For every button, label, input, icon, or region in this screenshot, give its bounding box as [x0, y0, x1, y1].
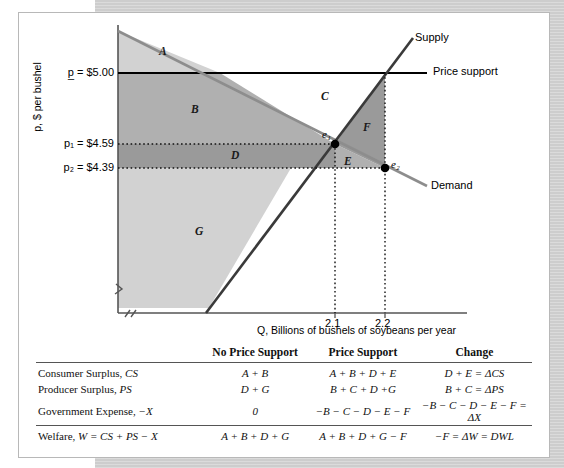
region-E-label: E [344, 155, 352, 167]
p2-value-label: p₂ = $4.39 [39, 161, 114, 173]
welfare-table: No Price Support Price Support Change Co… [36, 345, 532, 444]
price-support-curve-label: Price support [433, 65, 498, 77]
row-label-symbol: CS [125, 367, 138, 379]
cell-ps-no-price-support: D + G [201, 381, 309, 397]
row-label-text: Producer Surplus, [38, 383, 120, 395]
row-label-symbol: PS [120, 383, 132, 395]
e1-label: e₁ [322, 128, 331, 140]
cell-ps-change: B + C = ΔPS [417, 381, 532, 397]
e1-point [331, 140, 340, 149]
table-header-price-support: Price Support [309, 345, 417, 363]
y-axis-label: p, $ per bushel [31, 42, 43, 152]
cell-welfare-no-price-support: A + B + D + G [201, 426, 309, 445]
cell-welfare-change: −F = ΔW = DWL [417, 426, 532, 445]
chart-svg [19, 13, 549, 343]
p1-value-label: p₁ = $4.59 [39, 137, 114, 149]
table-row: Government Expense, −X 0 −B − C − D − E … [36, 397, 532, 426]
cell-gov-no-price-support: 0 [201, 397, 309, 426]
cell-gov-change: −B − C − D − E − F = ΔX [417, 397, 532, 426]
price-support-value-label: p̲ = $5.00 [39, 66, 114, 78]
region-D-shape [118, 144, 335, 168]
table-header-no-price-support: No Price Support [201, 345, 309, 363]
cell-ps-price-support: B + C + D +G [309, 381, 417, 397]
table-total-row: Welfare, W = CS + PS − X A + B + D + G A… [36, 426, 532, 445]
row-label-text: Consumer Surplus, [38, 367, 125, 379]
row-label-producer-surplus: Producer Surplus, PS [36, 381, 201, 397]
supply-curve-label: Supply [415, 31, 449, 43]
region-B-shape [118, 73, 335, 144]
row-label-text: Government Expense, [38, 405, 139, 417]
table-row: Producer Surplus, PS D + G B + C + D +G … [36, 381, 532, 397]
table-header-change: Change [417, 345, 532, 363]
row-label-government-expense: Government Expense, −X [36, 397, 201, 426]
row-label-consumer-surplus: Consumer Surplus, CS [36, 363, 201, 382]
row-label-welfare: Welfare, W = CS + PS − X [36, 426, 201, 445]
table-header-row: No Price Support Price Support Change [36, 345, 532, 363]
e2-label: e₂ [391, 158, 400, 170]
region-G-shape [118, 168, 291, 313]
table-row: Consumer Surplus, CS A + B A + B + D + E… [36, 363, 532, 382]
supply-demand-chart: p, $ per bushel Q, Billions of bushels o… [19, 13, 549, 343]
cell-cs-price-support: A + B + D + E [309, 363, 417, 382]
row-label-symbol: W = CS + PS − X [78, 430, 158, 442]
region-B-label: B [191, 103, 199, 115]
x-axis-label: Q, Billions of bushels of soybeans per y… [257, 324, 456, 336]
figure-card: p, $ per bushel Q, Billions of bushels o… [18, 12, 550, 458]
cell-welfare-price-support: A + B + D + G − F [309, 426, 417, 445]
region-D-label: D [231, 149, 239, 161]
row-label-text: Welfare, [38, 430, 78, 442]
e2-point [381, 164, 390, 173]
row-label-symbol: −X [139, 405, 153, 417]
table-header-blank [36, 345, 201, 363]
region-F-label: F [363, 121, 371, 133]
welfare-table-wrap: No Price Support Price Support Change Co… [19, 345, 549, 457]
cell-cs-no-price-support: A + B [201, 363, 309, 382]
x-tick-2-2: 2.2 [375, 317, 390, 329]
cell-cs-change: D + E = ΔCS [417, 363, 532, 382]
region-G-label: G [195, 225, 203, 237]
region-A-label: A [159, 45, 167, 57]
demand-curve-label: Demand [431, 179, 473, 191]
region-C-label: C [321, 90, 329, 102]
x-tick-2-1: 2.1 [325, 317, 340, 329]
cell-gov-price-support: −B − C − D − E − F [309, 397, 417, 426]
